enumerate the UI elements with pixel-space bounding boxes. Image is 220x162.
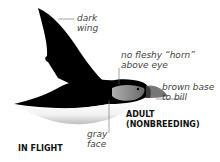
label-dark-wing: dark wing — [77, 13, 98, 33]
label-bill-base: brown base to bill — [162, 82, 214, 102]
label-no-horn: no fleshy “horn” above eye — [121, 50, 195, 70]
caption-pose: IN FLIGHT — [18, 144, 63, 154]
eye — [137, 88, 139, 90]
caption-age: ADULT (NONBREEDING) — [126, 110, 200, 130]
label-gray-face: gray face — [87, 129, 107, 149]
bird-illustration — [0, 0, 220, 162]
